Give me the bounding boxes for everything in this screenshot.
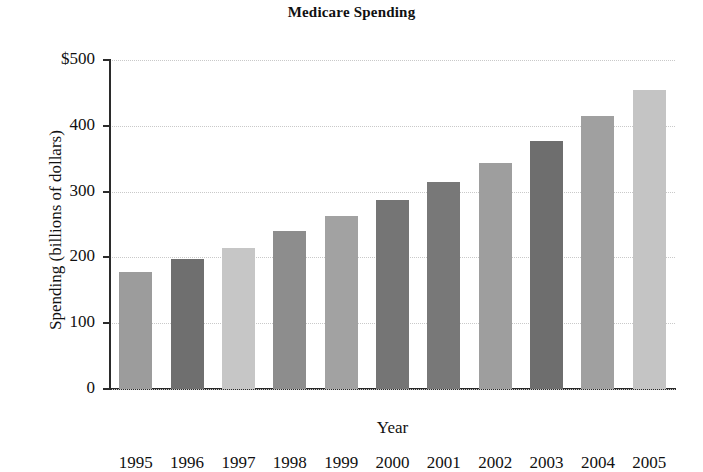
- x-axis-tick-label: 1996: [161, 453, 213, 472]
- x-axis-tick-label: 2002: [469, 453, 521, 472]
- y-axis-tick: [103, 388, 111, 390]
- x-axis-tick-label: 2005: [623, 453, 675, 472]
- gridline: [110, 389, 675, 390]
- bar: [530, 141, 563, 389]
- bar: [273, 231, 306, 389]
- y-axis-tick-label: 200: [5, 246, 95, 266]
- bar: [119, 272, 152, 389]
- y-axis-tick-label: $500: [5, 49, 95, 69]
- bar: [171, 259, 204, 389]
- x-axis-title: Year: [110, 418, 675, 438]
- y-axis-tick-label: 0: [5, 378, 95, 398]
- bar: [222, 248, 255, 389]
- bar: [479, 163, 512, 389]
- y-axis-tick: [103, 322, 111, 324]
- plot-area: Spending (billions of dollars) 010020030…: [110, 60, 675, 389]
- y-axis-tick: [103, 256, 111, 258]
- bar: [427, 182, 460, 389]
- y-axis-tick-label: 100: [5, 312, 95, 332]
- bar: [325, 216, 358, 389]
- x-axis-tick-label: 1995: [110, 453, 162, 472]
- y-axis-tick: [103, 125, 111, 127]
- y-axis-tick-label: 300: [5, 181, 95, 201]
- gridline: [110, 60, 675, 61]
- y-axis-tick: [103, 191, 111, 193]
- bar: [376, 200, 409, 390]
- bar: [581, 116, 614, 389]
- y-axis-tick: [103, 59, 111, 61]
- x-axis-tick-label: 1998: [264, 453, 316, 472]
- x-axis-tick-label: 2004: [572, 453, 624, 472]
- x-axis-tick-label: 1997: [212, 453, 264, 472]
- x-axis-tick-label: 2000: [367, 453, 419, 472]
- x-axis-tick-label: 1999: [315, 453, 367, 472]
- chart-title: Medicare Spending: [0, 4, 703, 21]
- y-axis-tick-label: 400: [5, 115, 95, 135]
- x-axis-tick-label: 2001: [418, 453, 470, 472]
- x-axis-tick-label: 2003: [521, 453, 573, 472]
- bar: [633, 90, 666, 389]
